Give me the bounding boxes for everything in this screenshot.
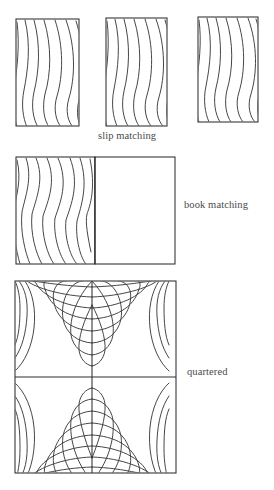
panel-frame <box>106 18 167 126</box>
slip-matching-group <box>13 17 263 127</box>
book-matching-group <box>13 157 177 264</box>
figure-canvas <box>0 0 274 490</box>
caption-slip-matching: slip matching <box>98 130 156 141</box>
slip-panel-2 <box>103 18 172 126</box>
slip-panel-1 <box>13 19 83 127</box>
caption-book-matching: book matching <box>184 199 248 210</box>
panel-frame <box>95 157 175 264</box>
veneer-matching-figure: slip matching book matching quartered <box>0 0 274 490</box>
quartered-group <box>15 281 176 481</box>
book-panel-right <box>95 157 178 264</box>
caption-quartered: quartered <box>187 366 228 377</box>
book-panel-left <box>13 157 95 264</box>
slip-panel-3 <box>195 17 263 122</box>
